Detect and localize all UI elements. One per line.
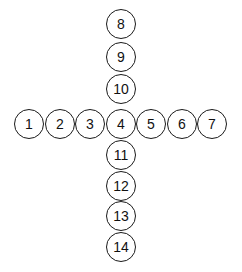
circle-node-9: 9	[106, 42, 136, 72]
node-label: 13	[113, 209, 129, 223]
node-label: 3	[86, 117, 94, 131]
node-label: 8	[117, 17, 125, 31]
circle-node-3: 3	[75, 109, 105, 139]
circle-node-8: 8	[106, 9, 136, 39]
circle-node-6: 6	[167, 109, 197, 139]
node-label: 11	[114, 148, 129, 162]
node-label: 10	[113, 82, 129, 96]
node-label: 14	[113, 240, 129, 254]
node-label: 1	[25, 117, 33, 131]
circle-node-4: 4	[106, 109, 136, 139]
node-label: 6	[178, 117, 186, 131]
circle-node-2: 2	[45, 109, 75, 139]
circle-node-14: 14	[106, 232, 136, 262]
circle-node-12: 12	[106, 171, 136, 201]
node-label: 5	[147, 117, 155, 131]
node-label: 9	[117, 50, 125, 64]
cross-diagram: 1 2 3 4 5 6 7 8 9 10 11 12 13 14	[0, 0, 242, 272]
node-label: 4	[117, 117, 125, 131]
circle-node-10: 10	[106, 74, 136, 104]
node-label: 7	[208, 117, 216, 131]
circle-node-7: 7	[197, 109, 227, 139]
circle-node-11: 11	[106, 140, 136, 170]
circle-node-13: 13	[106, 201, 136, 231]
node-label: 2	[56, 117, 64, 131]
circle-node-1: 1	[14, 109, 44, 139]
circle-node-5: 5	[136, 109, 166, 139]
node-label: 12	[113, 179, 129, 193]
